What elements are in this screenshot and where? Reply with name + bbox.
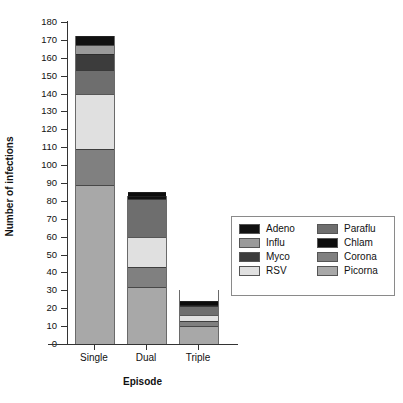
legend-item-influ[interactable]: Influ [239, 237, 309, 248]
legend-item-adeno[interactable]: Adeno [239, 223, 309, 234]
y-axis-tick-label: 30 [31, 284, 57, 295]
bar-segment-picorna[interactable] [180, 326, 218, 344]
y-axis-tick-label: 40 [31, 266, 57, 277]
bar-segment-paraflu[interactable] [180, 306, 218, 315]
legend-swatch-icon [239, 238, 260, 248]
bar-dual[interactable] [127, 196, 167, 344]
bar-segment-corona[interactable] [76, 149, 114, 185]
y-axis-tick-label: 50 [31, 249, 57, 260]
y-axis-tick-label: 120 [31, 123, 57, 134]
legend-label: Chlam [344, 237, 373, 248]
y-axis-tick-label: 100 [31, 159, 57, 170]
x-axis-title: Episode [55, 376, 230, 387]
y-axis-tick-label: 180 [31, 16, 57, 27]
bar-segment-myco[interactable] [76, 54, 114, 70]
y-axis-tick-label: 150 [31, 70, 57, 81]
legend-swatch-icon [317, 238, 338, 248]
legend-item-chlam[interactable]: Chlam [317, 237, 387, 248]
legend-label: Corona [344, 251, 377, 262]
legend-label: Adeno [266, 223, 295, 234]
legend-swatch-icon [317, 252, 338, 262]
legend-item-paraflu[interactable]: Paraflu [317, 223, 387, 234]
x-axis-line [48, 344, 238, 345]
legend-label: RSV [266, 265, 287, 276]
bar-segment-rsv[interactable] [76, 94, 114, 149]
x-axis-tick-label: Triple [168, 352, 228, 363]
legend-label: Paraflu [344, 223, 376, 234]
legend-swatch-icon [317, 266, 338, 276]
y-axis-tick-label: 140 [31, 88, 57, 99]
legend-item-rsv[interactable]: RSV [239, 265, 309, 276]
bar-segment-chlam[interactable] [180, 301, 218, 305]
legend-label: Picorna [344, 265, 378, 276]
legend-label: Influ [266, 237, 285, 248]
y-axis-tick-label: 60 [31, 231, 57, 242]
bar-triple[interactable] [179, 290, 219, 344]
bar-segment-influ[interactable] [76, 45, 114, 54]
bar-segment-paraflu[interactable] [128, 199, 166, 237]
x-axis-tick-label: Single [64, 352, 124, 363]
legend-grid: AdenoParafluInfluChlamMycoCoronaRSVPicor… [239, 223, 387, 276]
legend-swatch-icon [239, 266, 260, 276]
x-axis-tick [198, 344, 199, 350]
y-axis-tick-label: 10 [31, 320, 57, 331]
bar-single[interactable] [75, 36, 115, 344]
bar-segment-picorna[interactable] [128, 287, 166, 344]
y-axis-tick-label: 110 [31, 141, 57, 152]
x-axis-tick [146, 344, 147, 350]
legend-item-corona[interactable]: Corona [317, 251, 387, 262]
y-axis-tick-labels: 0102030405060708090100110120130140150160… [0, 0, 67, 403]
legend-swatch-icon [239, 252, 260, 262]
bar-segment-adeno[interactable] [76, 36, 114, 45]
bar-segment-rsv[interactable] [180, 315, 218, 320]
bar-segment-rsv[interactable] [128, 237, 166, 267]
bar-segment-chlam[interactable] [128, 192, 166, 196]
chart-figure: Number of infections 0102030405060708090… [0, 0, 403, 403]
y-axis-tick-label: 20 [31, 302, 57, 313]
bar-segment-corona[interactable] [128, 267, 166, 287]
plot-area [68, 22, 225, 344]
legend-swatch-icon [239, 224, 260, 234]
y-axis-tick-label: 170 [31, 34, 57, 45]
y-axis-tick-label: 90 [31, 177, 57, 188]
legend-item-picorna[interactable]: Picorna [317, 265, 387, 276]
y-axis-tick-label: 160 [31, 52, 57, 63]
legend-swatch-icon [317, 224, 338, 234]
y-axis-tick-label: 80 [31, 195, 57, 206]
legend-item-myco[interactable]: Myco [239, 251, 309, 262]
y-axis-tick-label: 70 [31, 213, 57, 224]
legend: AdenoParafluInfluChlamMycoCoronaRSVPicor… [231, 216, 395, 296]
legend-label: Myco [266, 251, 290, 262]
y-axis-tick-label: 130 [31, 105, 57, 116]
bar-segment-picorna[interactable] [76, 185, 114, 344]
bar-segment-paraflu[interactable] [76, 70, 114, 93]
x-axis-tick-label: Dual [116, 352, 176, 363]
bar-segment-adeno[interactable] [180, 305, 218, 307]
bar-segment-adeno[interactable] [128, 196, 166, 200]
x-axis-tick [94, 344, 95, 350]
bar-segment-corona[interactable] [180, 321, 218, 326]
